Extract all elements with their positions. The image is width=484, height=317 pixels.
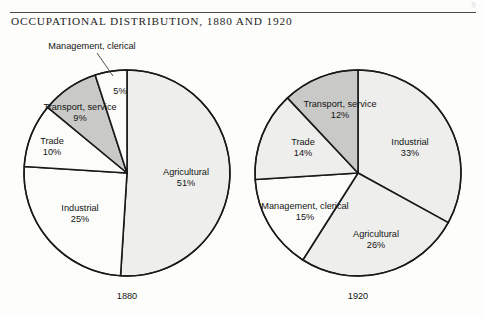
slice-value-text: 15%	[261, 212, 348, 223]
slice-value-text: 14%	[291, 148, 315, 159]
slice-label-text: Agricultural	[353, 229, 399, 239]
chart-page: 9 OCCUPATIONAL DISTRIBUTION, 1880 AND 19…	[0, 0, 484, 317]
slice-value-text: 33%	[391, 148, 428, 159]
slice-label-text: Trade	[291, 137, 315, 147]
slice-label-text: Management, clerical	[261, 201, 348, 211]
slice-value-text: 26%	[353, 240, 399, 251]
slice-label-text: Industrial	[391, 137, 428, 147]
slice-label-trade-1920: Trade 14%	[291, 137, 315, 158]
year-label-1920: 1920	[348, 291, 368, 301]
slice-value-text: 12%	[303, 110, 376, 121]
slice-label-transport-service-1920: Transport, service 12%	[303, 99, 376, 120]
slice-label-industrial-1920: Industrial 33%	[391, 137, 428, 158]
slice-label-management-clerical-1920: Management, clerical 15%	[261, 201, 348, 222]
slice-label-text: Transport, service	[303, 99, 376, 109]
slice-label-agricultural-1920: Agricultural 26%	[353, 229, 399, 250]
